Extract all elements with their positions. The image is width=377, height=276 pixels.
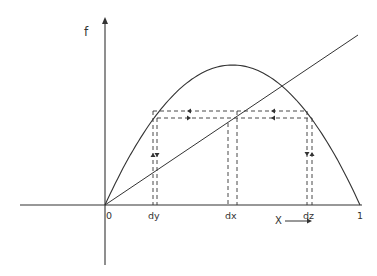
lower-right-left-arrow-icon	[271, 116, 275, 121]
origin-label: 0	[106, 210, 112, 221]
x-end-label: 1	[357, 210, 363, 221]
y-axis-label: f	[84, 25, 89, 39]
dy-up-arrow-icon	[151, 153, 156, 157]
dz-up-arrow-icon	[310, 152, 315, 156]
diagram-canvas: f 0 dy dx dz 1 X	[0, 0, 377, 276]
upper-left-arrow-icon	[187, 109, 191, 114]
dy-label: dy	[148, 210, 160, 221]
dy-down-arrow-icon	[155, 153, 160, 157]
dz-down-arrow-icon	[305, 152, 310, 156]
lower-right-arrow-icon	[187, 116, 191, 121]
parabola-curve	[105, 65, 360, 205]
x-axis-label: X	[275, 215, 282, 226]
y-axis-arrow-icon	[102, 17, 108, 24]
dx-label: dx	[225, 210, 237, 221]
diagonal-line	[105, 35, 358, 205]
upper-right-left-arrow-icon	[271, 109, 275, 114]
